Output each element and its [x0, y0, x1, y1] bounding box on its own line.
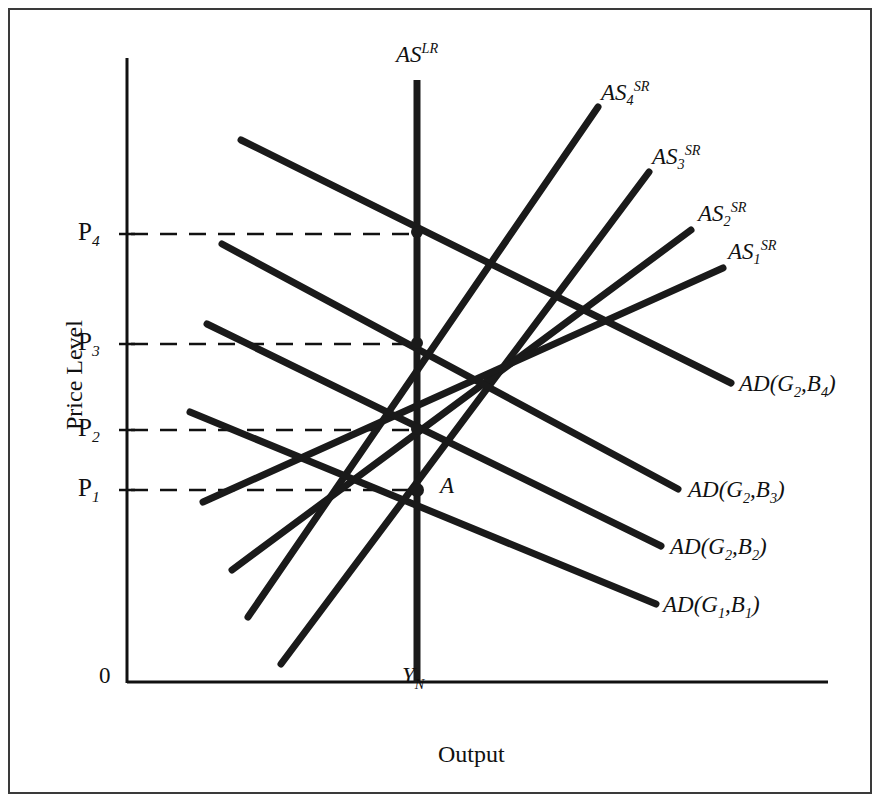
curve-label-as-lr-base: AS [396, 42, 422, 67]
curve-ad-g2-b4 [241, 140, 731, 383]
curve-as-sr-2 [232, 230, 691, 570]
curve-label-ad-g1-b1-suffix: ) [752, 592, 760, 617]
tick-label-p2-subscript: 2 [92, 428, 100, 445]
curve-label-ad-g2-b4-bsub: 4 [821, 384, 828, 400]
equilibrium-dot-p4 [411, 226, 423, 238]
curve-label-ad-g1-b1-bsub: 1 [745, 605, 752, 621]
curve-label-as-sr-2-superscript: SR [731, 199, 747, 215]
tick-label-p4-subscript: 4 [92, 232, 100, 249]
curve-label-as-sr-4-superscript: SR [634, 78, 650, 94]
natural-output-base: Y [402, 663, 415, 688]
tick-label-p2-base: P [78, 414, 92, 441]
natural-output-subscript: N [415, 676, 425, 692]
curve-label-ad-g2-b2-gsub: 2 [725, 547, 732, 563]
curve-label-ad-g2-b2-b: B [738, 534, 752, 559]
curve-label-ad-g2-b3-bsub: 3 [770, 490, 777, 506]
curve-label-ad-g2-b3-b: B [756, 477, 770, 502]
curve-label-as-sr-1: AS1SR [728, 238, 777, 267]
equilibrium-dot-p2 [411, 423, 423, 435]
curve-label-as-sr-1-superscript: SR [761, 237, 777, 253]
curve-label-ad-g2-b2: AD(G2,B2) [670, 535, 767, 562]
curve-label-as-sr-3-base: AS [652, 144, 678, 169]
curve-label-ad-g2-b3-g: G [726, 477, 743, 502]
equilibrium-dot-p3 [411, 337, 423, 349]
curve-label-ad-g2-b4-suffix: ) [828, 371, 836, 396]
curve-as-sr-3 [281, 172, 649, 664]
curve-label-ad-g2-b4: AD(G2,B4) [739, 372, 836, 399]
tick-label-p3-subscript: 3 [92, 342, 100, 359]
curve-label-ad-g1-b1-gsub: 1 [718, 605, 725, 621]
curve-label-ad-g2-b4-g: G [777, 371, 794, 396]
curve-label-ad-g1-b1: AD(G1,B1) [663, 593, 760, 620]
curve-label-ad-g2-b3-prefix: AD( [688, 477, 726, 502]
origin-label: 0 [99, 664, 111, 687]
curve-label-ad-g2-b3-gsub: 2 [743, 490, 750, 506]
curve-label-as-sr-4-subscript: 4 [627, 92, 634, 108]
tick-label-p4: P4 [78, 219, 100, 249]
curve-label-as-sr-2-subscript: 2 [724, 213, 731, 229]
curve-label-as-lr-superscript: LR [422, 40, 439, 56]
curve-as-sr-4 [248, 107, 598, 617]
curve-label-ad-g2-b4-gsub: 2 [794, 384, 801, 400]
equilibrium-point-label-a: A [440, 474, 454, 497]
plot-canvas [0, 0, 882, 811]
curve-label-ad-g2-b3-suffix: ) [777, 477, 785, 502]
tick-label-p1-subscript: 1 [92, 488, 100, 505]
curve-label-ad-g2-b2-prefix: AD( [670, 534, 708, 559]
tick-label-p2: P2 [78, 415, 100, 445]
curve-label-ad-g2-b3: AD(G2,B3) [688, 478, 785, 505]
curve-label-as-sr-1-base: AS [728, 239, 754, 264]
curve-label-as-sr-4-base: AS [601, 80, 627, 105]
tick-label-p1: P1 [78, 475, 100, 505]
curve-label-as-sr-3-subscript: 3 [678, 156, 685, 172]
curve-label-as-sr-4: AS4SR [601, 79, 650, 108]
curve-label-as-sr-3-superscript: SR [685, 142, 701, 158]
curve-label-as-sr-2-base: AS [698, 201, 724, 226]
tick-label-p1-base: P [78, 474, 92, 501]
curve-label-ad-g2-b4-b: B [807, 371, 821, 396]
curve-label-as-sr-3: AS3SR [652, 143, 701, 172]
curve-label-ad-g2-b2-suffix: ) [759, 534, 767, 559]
curve-label-ad-g2-b2-g: G [708, 534, 725, 559]
equilibrium-dot-a [410, 483, 424, 497]
curve-label-ad-g1-b1-g: G [701, 592, 718, 617]
curve-label-ad-g1-b1-b: B [731, 592, 745, 617]
x-axis-title: Output [438, 742, 505, 766]
curve-label-as-lr: ASLR [396, 41, 438, 66]
curve-label-as-sr-2: AS2SR [698, 200, 747, 229]
curve-label-ad-g2-b2-bsub: 2 [752, 547, 759, 563]
tick-label-p3: P3 [78, 329, 100, 359]
tick-label-p4-base: P [78, 218, 92, 245]
curve-label-ad-g1-b1-prefix: AD( [663, 592, 701, 617]
curve-label-as-sr-1-subscript: 1 [754, 251, 761, 267]
natural-output-label: YN [402, 664, 424, 691]
tick-label-p3-base: P [78, 328, 92, 355]
curve-label-ad-g2-b4-prefix: AD( [739, 371, 777, 396]
